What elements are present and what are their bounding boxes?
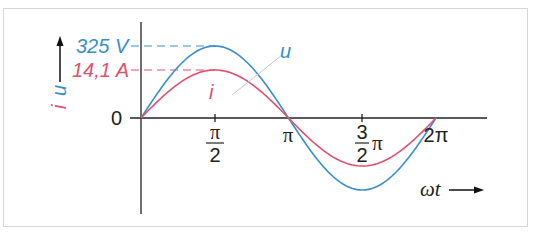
svg-text:π: π <box>210 121 220 143</box>
x-tick-pi: π <box>283 123 294 147</box>
y-direction-arrow-icon <box>57 36 64 82</box>
x-tick-3pi-over-2: 3 2 π <box>355 121 383 166</box>
zero-label: 0 <box>111 107 122 129</box>
y-label-u: u <box>48 85 70 96</box>
y-label-i: i <box>48 104 70 109</box>
x-direction-arrow-icon <box>449 187 484 194</box>
svg-text:2: 2 <box>356 144 367 166</box>
sine-diagram: u i 325 V 14,1 A 0 u i π 2 π 3 2 π 2π ωt <box>0 0 533 243</box>
curve-label-u: u <box>280 40 291 62</box>
svg-text:3: 3 <box>356 121 367 143</box>
x-tick-pi-over-2: π 2 <box>206 121 224 166</box>
x-axis-label: ωt <box>420 177 442 201</box>
i-peak-label: 14,1 A <box>72 59 129 81</box>
curve-label-i: i <box>209 81 214 103</box>
x-tick-2pi: 2π <box>424 124 449 146</box>
svg-text:π: π <box>372 131 383 155</box>
u-peak-label: 325 V <box>76 35 130 57</box>
svg-text:2: 2 <box>209 144 220 166</box>
